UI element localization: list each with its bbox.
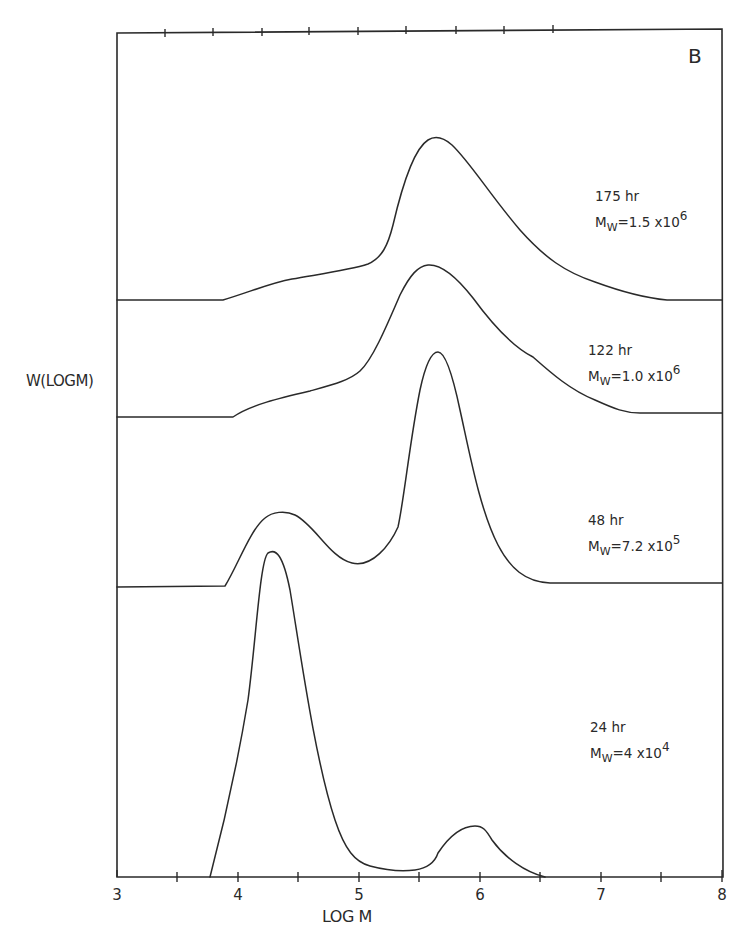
chart-plot-area (0, 0, 752, 948)
x-axis-ticks (117, 870, 722, 882)
y-axis-title: W(LOGM) (26, 372, 93, 390)
series-label-24hr: 24 hr MW=4 x104 (590, 717, 670, 769)
curve-24hr (210, 552, 545, 877)
x-tick-7: 7 (596, 886, 606, 904)
series-mw: MW=7.2 x105 (588, 530, 680, 562)
series-mw: MW=4 x104 (590, 737, 670, 769)
x-tick-8: 8 (717, 886, 727, 904)
series-time: 122 hr (588, 342, 632, 358)
series-mw: MW=1.5 x106 (595, 206, 687, 238)
x-axis-title: LOG M (322, 907, 372, 926)
series-time: 175 hr (595, 188, 639, 204)
x-tick-5: 5 (354, 886, 364, 904)
series-label-175hr: 175 hr MW=1.5 x106 (595, 186, 687, 238)
series-time: 24 hr (590, 719, 626, 735)
series-time: 48 hr (588, 512, 624, 528)
series-label-48hr: 48 hr MW=7.2 x105 (588, 510, 680, 562)
series-label-122hr: 122 hr MW=1.0 x106 (588, 340, 680, 392)
x-tick-3: 3 (112, 886, 122, 904)
series-mw: MW=1.0 x106 (588, 360, 680, 392)
x-tick-6: 6 (475, 886, 485, 904)
panel-label: B (688, 44, 701, 68)
x-tick-4: 4 (233, 886, 243, 904)
